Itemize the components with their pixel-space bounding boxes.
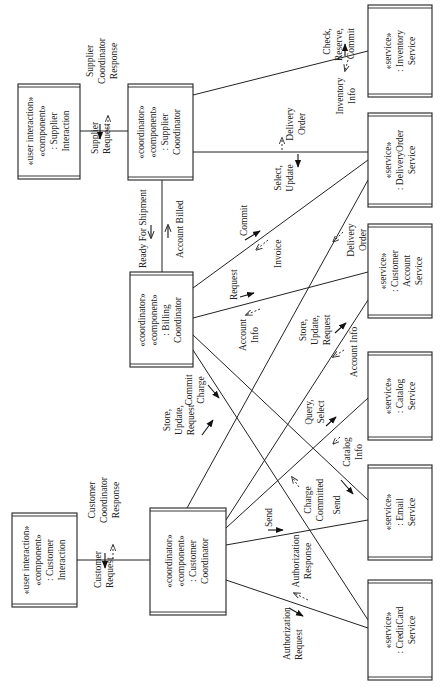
stereotype-label: «service» xyxy=(383,378,393,415)
label-send-1: Send xyxy=(264,508,274,527)
svg-text:Authorization: Authorization xyxy=(291,534,301,587)
label-query-select: Query, Select xyxy=(304,399,326,425)
label-invoice: Invoice xyxy=(273,240,283,269)
box-inventory-service[interactable]: «service» : Inventory Service xyxy=(368,5,432,97)
box-customer-interaction[interactable]: «user interaction» «component» : Custome… xyxy=(12,513,77,607)
stereotype-label: «service» xyxy=(383,33,393,70)
instance-name: : Customer xyxy=(390,249,400,292)
svg-text:Account Info: Account Info xyxy=(349,327,359,378)
instance-name: Coordinator xyxy=(173,296,183,343)
instance-name: Interaction xyxy=(57,539,67,580)
svg-text:Select: Select xyxy=(316,400,326,424)
svg-text:Catalog: Catalog xyxy=(342,437,352,467)
svg-text:Request: Request xyxy=(105,557,115,588)
svg-text:Customer: Customer xyxy=(93,550,103,588)
label-inventory-info: Inventory Info xyxy=(335,77,357,114)
arrow-store-update-request-1 xyxy=(335,323,346,333)
stereotype-label: «service» xyxy=(383,494,393,531)
arrow-send-2 xyxy=(341,480,353,494)
arrow-request xyxy=(240,293,254,297)
svg-text:Select,: Select, xyxy=(273,165,283,191)
label-commit: Commit xyxy=(239,204,249,236)
stereotype-label: «component» xyxy=(33,534,43,586)
instance-name: : Billing xyxy=(161,304,171,336)
svg-text:Order: Order xyxy=(297,112,307,135)
label-send-2: Send xyxy=(332,495,342,514)
svg-text:Info: Info xyxy=(250,327,260,343)
box-customer-coordinator[interactable]: «coordinator» «component» : Customer Coo… xyxy=(150,508,226,615)
label-account-info-2: Account Info xyxy=(349,327,359,378)
box-email-service[interactable]: «service» : Email Service xyxy=(368,465,432,560)
instance-name: Coordinator xyxy=(172,108,182,155)
svg-text:Send: Send xyxy=(264,508,274,527)
stereotype-label: «service» xyxy=(383,142,393,179)
instance-name: Coordinator xyxy=(200,537,210,584)
stereotype-label: «coordinator» xyxy=(136,105,146,159)
label-charge-committed: Charge Committed xyxy=(303,478,325,521)
label-authorization-response: Authorization Response xyxy=(291,534,313,587)
instance-name: : DeliveryOrder xyxy=(395,129,405,190)
box-catalog-service[interactable]: «service» : Catalog Service xyxy=(368,352,432,440)
svg-text:Authorization: Authorization xyxy=(282,607,292,660)
stereotype-label: «component» xyxy=(176,535,186,587)
label-account-info-1: Account Info xyxy=(238,319,260,352)
svg-text:Request: Request xyxy=(102,123,112,154)
stereotype-label: «service» xyxy=(383,612,393,649)
instance-name: : Customer xyxy=(188,539,198,582)
svg-text:Request: Request xyxy=(186,404,196,435)
instance-name: : Customer xyxy=(45,538,55,581)
svg-text:Commit: Commit xyxy=(239,204,249,236)
svg-text:Charge: Charge xyxy=(196,376,206,403)
svg-text:Send: Send xyxy=(332,495,342,514)
svg-text:Charge: Charge xyxy=(303,486,313,513)
stereotype-label: «service» xyxy=(378,253,388,290)
label-customer-request: Customer Request xyxy=(93,550,115,588)
label-delivery-order-2: Delivery Order xyxy=(346,223,368,256)
svg-text:Account: Account xyxy=(238,319,248,352)
instance-name: Service xyxy=(407,37,417,66)
label-ready-for-shipment: Ready For Shipment xyxy=(138,189,148,268)
svg-text:Order: Order xyxy=(358,228,368,251)
svg-text:Response: Response xyxy=(109,43,119,79)
stereotype-label: «component» xyxy=(149,294,159,346)
label-customer-coordinator-response: Customer Coordinator Response xyxy=(87,476,121,523)
arrow-account-info-1 xyxy=(246,309,260,315)
box-customeraccount-service[interactable]: «service» : Customer Account Service xyxy=(368,224,432,318)
instance-name: : Inventory xyxy=(395,30,405,72)
box-creditcard-service[interactable]: «service» : CreditCard Service xyxy=(368,580,432,680)
instance-name: : Catalog xyxy=(395,378,405,413)
instance-name: : Supplier xyxy=(160,113,170,151)
box-billing-coordinator[interactable]: «coordinator» «component» : Billing Coor… xyxy=(130,272,193,367)
link-billing-customeraccount xyxy=(193,272,368,318)
box-deliveryorder-service[interactable]: «service» : DeliveryOrder Service xyxy=(368,113,432,207)
instance-name: Account xyxy=(402,255,412,288)
svg-text:Request: Request xyxy=(294,629,304,660)
svg-text:Coordinator: Coordinator xyxy=(99,476,109,523)
svg-text:Query,: Query, xyxy=(304,399,314,425)
svg-text:Commit: Commit xyxy=(184,374,194,406)
svg-text:Response: Response xyxy=(303,543,313,579)
label-catalog-info: Catalog Info xyxy=(342,437,364,467)
svg-text:Info: Info xyxy=(354,444,364,460)
label-supplier-coordinator-response: Supplier Coordinator Response xyxy=(85,37,119,84)
box-supplier-coordinator[interactable]: «coordinator» «component» : Supplier Coo… xyxy=(128,84,193,180)
label-store-update-request-1: Store, Update, Request xyxy=(298,314,332,345)
instance-name: : Supplier xyxy=(49,112,59,150)
stereotype-label: «user interaction» xyxy=(25,97,35,166)
svg-text:Delivery: Delivery xyxy=(285,107,295,140)
instance-name: Service xyxy=(407,498,417,527)
svg-text:Committed: Committed xyxy=(315,478,325,521)
stereotype-label: «component» xyxy=(37,105,47,157)
svg-text:Account Billed: Account Billed xyxy=(175,200,185,258)
svg-text:Invoice: Invoice xyxy=(273,240,283,269)
instance-name: Service xyxy=(407,382,417,411)
box-supplier-interaction[interactable]: «user interaction» «component» : Supplie… xyxy=(18,84,80,179)
svg-text:Supplier: Supplier xyxy=(85,44,95,77)
instance-name: Interaction xyxy=(61,110,71,151)
svg-text:Store,: Store, xyxy=(162,409,172,431)
stereotype-label: «coordinator» xyxy=(164,534,174,588)
arrow-inventory-info xyxy=(345,60,348,71)
label-supplier-request: Supplier Request xyxy=(90,121,112,154)
arrow-invoice xyxy=(256,240,268,250)
svg-text:Update: Update xyxy=(285,164,295,191)
